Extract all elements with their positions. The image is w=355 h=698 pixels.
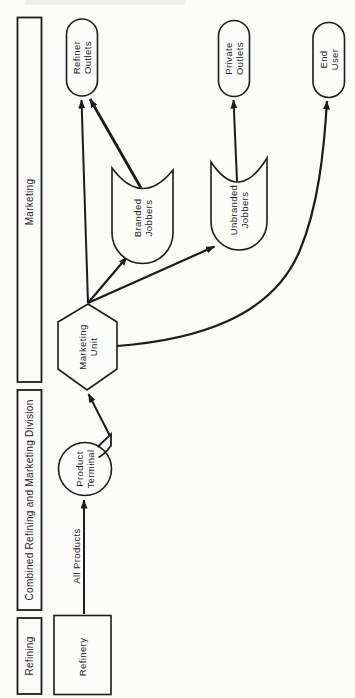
refiner-outlets-label-line1: Refiner xyxy=(71,41,82,74)
node-branded-jobbers: Branded Jobbers xyxy=(112,168,173,263)
diagram-canvas: Marketing Combined Refining and Marketin… xyxy=(0,0,355,698)
lane-marketing: Marketing xyxy=(18,18,42,383)
marketing-unit-label-line1: Marketing xyxy=(77,324,88,369)
scanned-flow-diagram: Marketing Combined Refining and Marketin… xyxy=(0,0,355,698)
node-private-outlets: Private Outlets xyxy=(219,21,250,97)
node-end-user: End User xyxy=(313,23,345,98)
node-marketing-unit: Marketing Unit xyxy=(58,304,117,390)
lane-marketing-label: Marketing xyxy=(24,179,35,226)
refiner-outlets-label-line2: Outlets xyxy=(82,41,93,74)
lane-combined-division: Combined Refining and Marketing Division xyxy=(18,390,42,610)
arrow-marketing-unit-to-branded-jobbers xyxy=(88,257,127,303)
node-unbranded-jobbers: Unbranded Jobbers xyxy=(211,158,267,250)
lane-refining: Refining xyxy=(18,618,42,694)
node-product-terminal: Product Terminal xyxy=(59,434,112,496)
unbranded-jobbers-label-line2: Jobbers xyxy=(239,192,250,229)
private-outlets-label-line2: Outlets xyxy=(234,42,245,75)
product-terminal-label-line1: Product xyxy=(74,451,85,487)
lane-combined-division-label: Combined Refining and Marketing Division xyxy=(24,400,35,601)
product-terminal-label-line2: Terminal xyxy=(85,449,96,488)
branded-jobbers-label-line2: Jobbers xyxy=(143,200,154,237)
refinery-label: Refinery xyxy=(77,638,88,677)
scan-artifact xyxy=(25,0,185,5)
end-user-label-line1: End xyxy=(318,50,329,68)
unbranded-jobbers-label-line1: Unbranded xyxy=(228,185,239,236)
arrow-marketing-unit-to-refiner-outlets xyxy=(82,100,89,303)
node-refiner-outlets: Refiner Outlets xyxy=(67,19,98,96)
private-outlets-label-line1: Private xyxy=(223,42,234,74)
node-refinery: Refinery xyxy=(54,616,111,695)
end-user-label-line2: User xyxy=(329,49,340,71)
arrow-terminal-to-marketing-unit xyxy=(89,394,111,436)
lane-refining-label: Refining xyxy=(24,636,35,675)
branded-jobbers-label-line1: Branded xyxy=(132,199,143,238)
arrow-unbranded-jobbers-to-private-outlets xyxy=(234,100,238,181)
edge-label-all-products: All Products xyxy=(71,528,82,584)
marketing-unit-label-line2: Unit xyxy=(88,338,99,357)
